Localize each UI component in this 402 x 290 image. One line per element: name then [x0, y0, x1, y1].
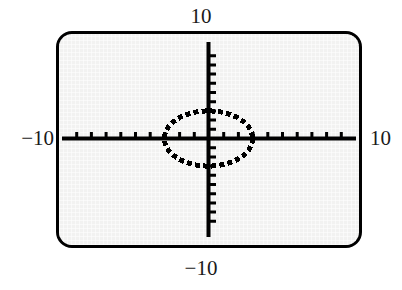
- x-axis-min-label: −10: [8, 128, 54, 149]
- plot-area: [59, 34, 359, 245]
- y-axis-min-label: −10: [0, 258, 402, 279]
- graph-figure: 10 −10 −10 10: [0, 0, 402, 290]
- calculator-screen: [56, 31, 362, 248]
- x-axis-max-label: 10: [370, 128, 402, 149]
- y-axis-max-label: 10: [0, 6, 402, 27]
